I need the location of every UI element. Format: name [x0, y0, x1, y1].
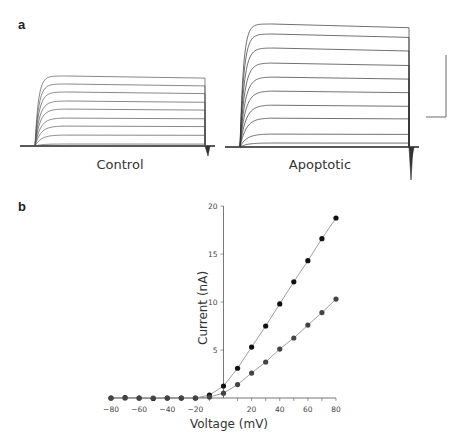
iv-plot-axes: −80−60−40−20204060805101520 — [103, 202, 341, 414]
data-point — [179, 395, 184, 400]
data-point — [137, 395, 142, 400]
data-point — [277, 301, 282, 306]
data-point — [305, 258, 310, 263]
data-point — [305, 322, 310, 327]
x-tick-label: −20 — [187, 405, 203, 414]
y-tick-label: 15 — [208, 250, 218, 259]
control-current-traces — [20, 76, 215, 156]
scale-bar — [426, 55, 446, 117]
x-tick-label: −40 — [159, 405, 175, 414]
data-point — [235, 382, 240, 387]
data-point — [319, 310, 324, 315]
data-point — [263, 323, 268, 328]
data-point — [235, 366, 240, 371]
data-point — [333, 297, 338, 302]
x-tick-label: 80 — [331, 405, 341, 414]
data-point — [333, 215, 338, 220]
data-point — [193, 395, 198, 400]
x-tick-label: 40 — [275, 405, 285, 414]
x-tick-label: 60 — [303, 405, 313, 414]
x-tick-label: −60 — [131, 405, 147, 414]
x-tick-label: 20 — [247, 405, 257, 414]
data-point — [221, 383, 226, 388]
data-point — [122, 395, 127, 400]
data-point — [291, 335, 296, 340]
figure-canvas: −80−60−40−20204060805101520 Current (nA)… — [0, 0, 466, 448]
data-point — [221, 391, 226, 396]
data-point — [277, 346, 282, 351]
data-point — [249, 370, 254, 375]
y-axis-title: Current (nA) — [196, 271, 210, 345]
data-point — [319, 236, 324, 241]
data-point — [249, 345, 254, 350]
apoptotic-current-traces — [225, 24, 419, 180]
x-tick-label: −80 — [103, 405, 119, 414]
data-point — [263, 359, 268, 364]
y-tick-label: 20 — [208, 202, 218, 211]
x-axis-title: Voltage (mV) — [190, 417, 268, 431]
data-point — [151, 395, 156, 400]
y-tick-label: 5 — [213, 346, 218, 355]
data-point — [165, 395, 170, 400]
data-point — [291, 279, 296, 284]
data-point — [108, 395, 113, 400]
data-point — [207, 394, 212, 399]
